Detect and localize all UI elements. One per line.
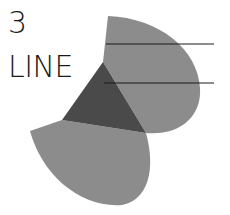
lower-sector xyxy=(30,120,150,205)
geometric-figure xyxy=(0,0,230,215)
